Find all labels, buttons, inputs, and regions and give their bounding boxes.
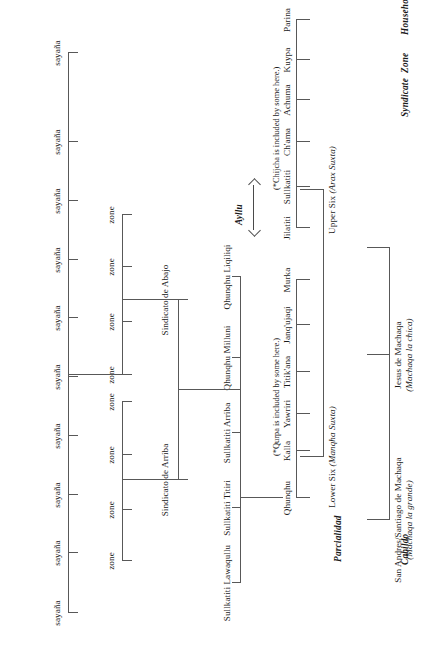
ayllu-upper-5: Parina — [282, 8, 293, 32]
household-4: sayaña — [52, 364, 63, 389]
arrow-head-right-icon — [248, 178, 261, 191]
ayllu-upper-spine — [296, 20, 297, 228]
household-1: sayaña — [52, 540, 63, 565]
row-label-zone: Zone — [400, 53, 410, 73]
syndicate-abajo: Sindicato de Abajo — [160, 264, 171, 335]
subayllu-1: Sullkatiti Titiri — [222, 480, 233, 536]
cabildo-jesus: Jesus de Machaqa (Machaqa la chica) — [393, 275, 414, 435]
ayllu-range-arrow — [248, 180, 259, 235]
zone-spine-abajo — [122, 215, 123, 375]
household-stub-1 — [68, 552, 78, 553]
subayllu-stub-2 — [232, 432, 241, 433]
household-stub-6 — [68, 259, 78, 260]
ayllu-lower-1: Kalla — [282, 441, 293, 461]
ayllu-lower-2: Yawriri — [282, 400, 293, 428]
zone-0: zone — [106, 552, 117, 570]
diagram-canvas: Cabildo Parcialidad Syndicate Zone House… — [0, 0, 441, 645]
parcialidad-stub-lower — [300, 456, 324, 457]
parcialidad-connector-spine — [323, 190, 324, 457]
parcialidad-lower: Lower Six (Manqha Suxta) — [327, 406, 338, 508]
household-0: sayaña — [52, 600, 63, 625]
ayllu-lower-0: Qhunqhu — [282, 481, 293, 516]
household-spine — [68, 53, 69, 613]
household-stub-2 — [68, 494, 78, 495]
household-stub-7 — [68, 200, 78, 201]
household-8: sayaña — [52, 129, 63, 154]
parcialidad-lower-alt: (Manqha Suxta) — [327, 406, 337, 466]
parcialidad-stub-upper — [300, 189, 324, 190]
subayllu-spine — [240, 277, 241, 583]
zone-5: zone — [106, 313, 117, 331]
ayllu-upper-4: Kuypa — [282, 48, 293, 73]
ayllu-upper-2: Ch'ama — [282, 128, 293, 156]
zone-stub-3 — [122, 401, 132, 402]
cabildo-connector-spine — [389, 248, 390, 520]
household-stub-4 — [68, 376, 78, 377]
subayllu-stub-4 — [232, 276, 241, 277]
ayllu-lower-5: Murka — [282, 268, 293, 293]
ayllu-lower-stub-1 — [296, 450, 310, 451]
cabildo-jesus-subtitle: (Machaqa la chica) — [404, 275, 415, 435]
cabildo-connector-root — [367, 247, 390, 248]
ayllu-arrow-label: Ayllu — [234, 204, 244, 225]
ayllu-lower-4: Janq'ujaqi — [282, 306, 293, 344]
subayllu-stub-1 — [232, 507, 241, 508]
zone-stub-2 — [122, 454, 132, 455]
zone-2: zone — [106, 446, 117, 464]
rotated-chart-layer: Cabildo Parcialidad Syndicate Zone House… — [0, 0, 441, 645]
ayllu-upper-stub-2 — [296, 141, 310, 142]
household-stub-0 — [68, 612, 78, 613]
upper-six-note: (*Chijcha is included by some here.) — [272, 67, 281, 190]
cabildo-connector-stub-sanandres — [367, 519, 390, 520]
ayllu-upper-stub-1 — [296, 186, 310, 187]
ayllu-upper-1: Sullkatiti — [282, 170, 293, 204]
arrow-head-left-icon — [248, 224, 261, 237]
ayllu-upper-stub-3 — [296, 99, 310, 100]
subayllu-3: Qhunqhu Milluni — [222, 326, 233, 391]
ayllu-lower-spine — [296, 279, 297, 498]
ayllu-upper-stub-4 — [296, 59, 310, 60]
subayllu-4: Qhunqhu Liqiliqi — [222, 244, 233, 309]
subayllu-stub-0 — [232, 582, 241, 583]
lower-six-note: (*Qurpa is included by some here.) — [272, 338, 281, 456]
ayllu-upper-stub-0 — [296, 227, 310, 228]
subayllu-2: Sullkatiti Arriba — [222, 403, 233, 464]
row-label-parcialidad: Parcialidad — [333, 515, 343, 562]
ayllu-lower-stub-5 — [296, 279, 310, 280]
household-stub-8 — [68, 141, 78, 142]
ayllu-upper-3: Achuma — [282, 84, 293, 115]
zone-6: zone — [106, 258, 117, 276]
syndicate-stub-abajo — [178, 299, 188, 300]
cabildo-san-andres-name: San Andres/Santiago de Machaqa — [393, 420, 404, 620]
household-stub-3 — [68, 435, 78, 436]
subayllu-stub-3 — [232, 357, 241, 358]
household-3: sayaña — [52, 423, 63, 448]
parcialidad-upper-name: Upper Six — [327, 196, 337, 234]
zone-stub-4 — [122, 374, 132, 375]
syndicate-arriba: Sindicato de Arriba — [160, 444, 171, 517]
syndicate-root-link — [178, 389, 240, 390]
parcialidad-upper: Upper Six (Arax Suxta) — [327, 146, 338, 234]
ayllu-lower-stub-0 — [296, 497, 310, 498]
zone-7: zone — [106, 206, 117, 224]
qhunqhu-to-subayllu-link — [240, 497, 283, 498]
syndicate-spine — [178, 300, 179, 480]
zone-arriba-root-link — [122, 479, 179, 480]
syndicate-stub-arriba — [178, 479, 188, 480]
subayllu-0: Sullkatiti Lawaqullu — [222, 545, 233, 622]
cabildo-san-andres-subtitle: (Machaqa la grande) — [404, 420, 415, 620]
household-stub-5 — [68, 317, 78, 318]
parcialidad-lower-name: Lower Six — [327, 469, 337, 508]
row-label-syndicate: Syndicate — [400, 78, 410, 117]
parcialidad-upper-alt: (Arax Suxta) — [327, 146, 337, 193]
arrow-bar — [253, 185, 254, 230]
ayllu-upper-0: Jilatiti — [282, 216, 293, 240]
ayllu-lower-stub-2 — [296, 413, 310, 414]
household-root-link — [68, 374, 123, 375]
zone-1: zone — [106, 501, 117, 519]
ayllu-lower-stub-3 — [296, 371, 310, 372]
household-2: sayaña — [52, 482, 63, 507]
zone-stub-5 — [122, 321, 132, 322]
zone-abajo-root-link — [122, 299, 179, 300]
household-5: sayaña — [52, 305, 63, 330]
